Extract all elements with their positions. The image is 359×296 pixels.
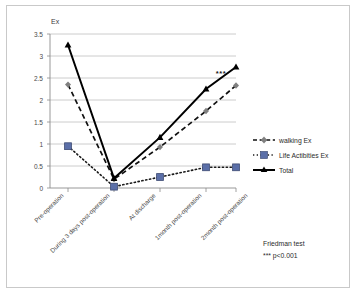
legend-item-life-activities-ex: Life Actibities Ex — [253, 152, 329, 159]
x-axis-label-pre-operation: Pre-operation — [33, 191, 66, 224]
y-tick-label: 1 — [39, 141, 43, 148]
legend-marker-diamond-icon — [261, 137, 267, 144]
footnote-test-name: Friedman test — [263, 240, 305, 247]
x-axis-label-at-discharge: At discharge — [127, 191, 158, 222]
y-tick-label: 2.5 — [34, 75, 43, 82]
chart-legend: walking Ex Life Actibities Ex Total — [253, 137, 329, 174]
data-point-marker — [157, 174, 164, 181]
data-point-marker — [233, 63, 240, 69]
x-axis-label-1month-post-operation: 1month post-operation — [153, 191, 204, 242]
footnote-p-value: *** p<0.001 — [263, 252, 298, 260]
legend-label-life-activities-ex: Life Actibities Ex — [279, 152, 329, 159]
series-line-total — [68, 45, 236, 178]
data-point-marker — [65, 143, 72, 150]
chart-frame: Ex 3.5 3 2.5 2 1.5 1 0.5 0 *** Pre-opera… — [6, 5, 350, 288]
y-tick-label: 0.5 — [34, 163, 43, 170]
data-point-marker — [111, 183, 118, 190]
y-tick-label: 2 — [39, 97, 43, 104]
y-tick-label: 3.5 — [34, 31, 43, 38]
data-point-marker — [233, 164, 240, 171]
y-tick-label: 1.5 — [34, 119, 43, 126]
x-tick-marks — [68, 188, 236, 192]
x-axis-label-2month-post-operation: 2month post-operation — [199, 191, 250, 242]
data-point-marker — [203, 164, 210, 171]
legend-item-walking-ex: walking Ex — [253, 137, 312, 145]
legend-item-total: Total — [253, 166, 294, 173]
series-line-walking-ex — [68, 85, 236, 180]
legend-label-walking-ex: walking Ex — [278, 137, 312, 145]
data-point-marker — [65, 41, 72, 47]
chart-footnote: Friedman test *** p<0.001 — [263, 240, 305, 260]
significance-annotation: *** — [216, 69, 227, 78]
legend-label-total: Total — [279, 167, 294, 174]
y-tick-label: 3 — [39, 53, 43, 60]
x-axis-labels: Pre-operation During 3 days post-operati… — [33, 191, 250, 254]
gridlines — [50, 34, 236, 166]
line-chart: Ex 3.5 3 2.5 2 1.5 1 0.5 0 *** Pre-opera… — [7, 6, 349, 287]
data-point-marker — [65, 81, 71, 87]
legend-marker-square-icon — [261, 152, 268, 159]
y-axis-title: Ex — [51, 18, 60, 25]
y-tick-label: 0 — [39, 185, 43, 192]
